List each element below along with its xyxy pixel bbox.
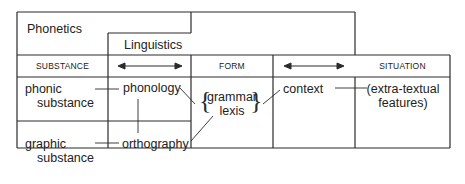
double-arrow-icon: [284, 63, 344, 69]
orthography-label: orthography: [122, 138, 189, 151]
graphic-substance-label: substance: [37, 152, 94, 165]
linguistics-label: Linguistics: [124, 39, 182, 52]
substance-header: SUBSTANCE: [17, 62, 108, 71]
features-label: features): [357, 97, 449, 110]
graphic-label: graphic: [25, 138, 66, 151]
phonic-substance-label: substance: [37, 97, 94, 110]
lexis-label: lexis: [207, 105, 257, 118]
phonology-label: phonology: [123, 82, 181, 95]
phonic-label: phonic: [25, 83, 62, 96]
form-header: FORM: [191, 62, 273, 71]
double-arrow-icon: [118, 63, 182, 69]
grammar-label: grammar: [207, 91, 257, 104]
situation-header: SITUATION: [355, 62, 450, 71]
context-label: context: [283, 83, 323, 96]
extra-textual-label: (extra-textual: [357, 83, 449, 96]
phonetics-label: Phonetics: [27, 23, 82, 36]
